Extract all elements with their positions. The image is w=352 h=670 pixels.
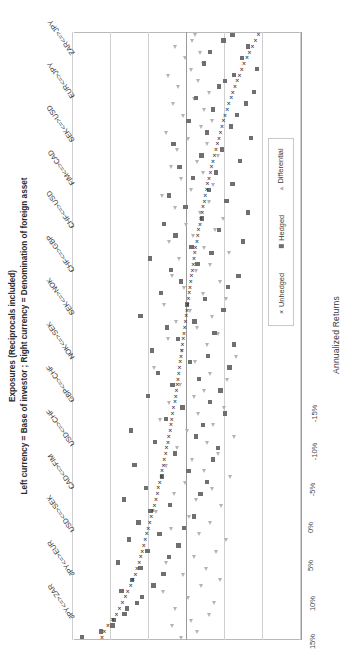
data-point: ×: [222, 112, 229, 119]
category-axis-label-text: EUR<=>JPY: [45, 61, 77, 101]
data-point: ×: [192, 244, 199, 251]
data-point: [175, 148, 179, 152]
category-axis-label-text: USD<=>SEK: [44, 494, 76, 535]
category-axis-label: GBP<=>CHF: [33, 396, 73, 406]
data-point: [138, 314, 142, 318]
chart-figure-rotated: Annualized Returns 15%10%5%0%-5%-10%-15%…: [0, 0, 352, 670]
data-point: ×: [234, 77, 241, 84]
gridline: [148, 32, 149, 640]
data-point: [205, 130, 209, 134]
value-axis-tick-label: 5%: [306, 561, 315, 572]
category-axis-label: EUR<=>JPY: [33, 92, 73, 102]
data-point: ×: [178, 347, 185, 354]
data-point: [165, 325, 169, 329]
data-point: [232, 73, 236, 77]
category-axis-title: Exposures (Reciprocals included) Left cu…: [4, 32, 34, 640]
data-point: ×: [171, 398, 178, 405]
data-point: [198, 211, 202, 215]
data-point: [198, 492, 202, 496]
data-point: ×: [229, 89, 236, 96]
data-point: [210, 120, 214, 124]
data-point: [232, 342, 236, 346]
data-point: ×: [204, 181, 211, 188]
data-point: [116, 560, 120, 564]
data-point: ×: [194, 232, 201, 239]
data-point: [156, 371, 160, 375]
data-point: [214, 170, 218, 174]
gridline: [262, 32, 263, 640]
data-point: [205, 480, 209, 484]
data-point: [164, 464, 168, 468]
data-point: [180, 349, 184, 353]
data-point: [152, 366, 156, 370]
data-point: [173, 206, 177, 210]
data-point: [207, 188, 211, 192]
data-point: ×: [214, 140, 221, 147]
data-point: [170, 624, 174, 628]
category-axis-label-text: SEK<=>USD: [44, 103, 76, 144]
data-point: [230, 33, 234, 37]
data-point: [201, 292, 205, 296]
legend-item: Differential: [270, 142, 292, 198]
data-point: [167, 193, 171, 197]
data-point: [170, 274, 174, 278]
data-point: [171, 102, 175, 106]
data-point: ×: [116, 605, 123, 612]
data-point: [136, 520, 140, 524]
data-point: [173, 607, 177, 611]
data-point: ×: [184, 307, 191, 314]
data-point: ×: [140, 542, 147, 549]
value-axis-tick-label: 10%: [308, 596, 317, 611]
data-point: [164, 131, 168, 135]
data-point: [238, 159, 242, 163]
value-axis-tick-label: 15%: [308, 634, 317, 649]
category-axis-label: NOK<=>SEK: [33, 353, 73, 363]
data-point: [252, 90, 256, 94]
value-axis-tick: 0%: [305, 523, 331, 533]
value-axis-tick-label: -10%: [309, 443, 318, 461]
data-point: [194, 269, 198, 273]
data-point: ×: [163, 444, 170, 451]
data-point: [170, 383, 174, 387]
data-point: ×: [127, 582, 134, 589]
data-point: [202, 108, 206, 112]
data-point: [216, 452, 220, 456]
data-point: ×: [165, 439, 172, 446]
data-point: [80, 635, 84, 639]
data-point: ×: [149, 507, 156, 514]
data-point: [203, 297, 207, 301]
data-point: ×: [152, 496, 159, 503]
data-point: [112, 618, 116, 622]
data-point: ×: [211, 152, 218, 159]
data-point: ×: [177, 353, 184, 360]
category-axis-label: USD<=>SEK: [33, 526, 73, 536]
data-point: [150, 348, 154, 352]
data-point: [202, 389, 206, 393]
value-axis-tick: 5%: [305, 561, 331, 571]
data-point: ×: [173, 387, 180, 394]
category-axis-label-text: CHF<=>GBP: [44, 233, 76, 274]
data-point: [209, 251, 213, 255]
data-point: [211, 457, 215, 461]
data-point: [207, 91, 211, 95]
data-point: [210, 487, 214, 491]
gridline: [300, 32, 301, 640]
data-point: ×: [175, 370, 182, 377]
data-point: ×: [169, 410, 176, 417]
data-point: [225, 378, 229, 382]
data-point: [180, 406, 184, 410]
data-point: [206, 354, 210, 358]
data-point: ×: [158, 473, 165, 480]
data-point: ×: [172, 393, 179, 400]
data-point: [195, 160, 199, 164]
data-point: [204, 567, 208, 571]
category-axis-label-text: SEK<=>NOK: [44, 276, 76, 317]
data-point: ×: [139, 548, 146, 555]
data-point: ×: [151, 502, 158, 509]
data-point: [197, 532, 201, 536]
value-axis-tick: -5%: [305, 485, 331, 495]
data-point: [195, 326, 199, 330]
data-point: ×: [206, 175, 213, 182]
data-point: [167, 401, 171, 405]
data-point: [192, 319, 196, 323]
